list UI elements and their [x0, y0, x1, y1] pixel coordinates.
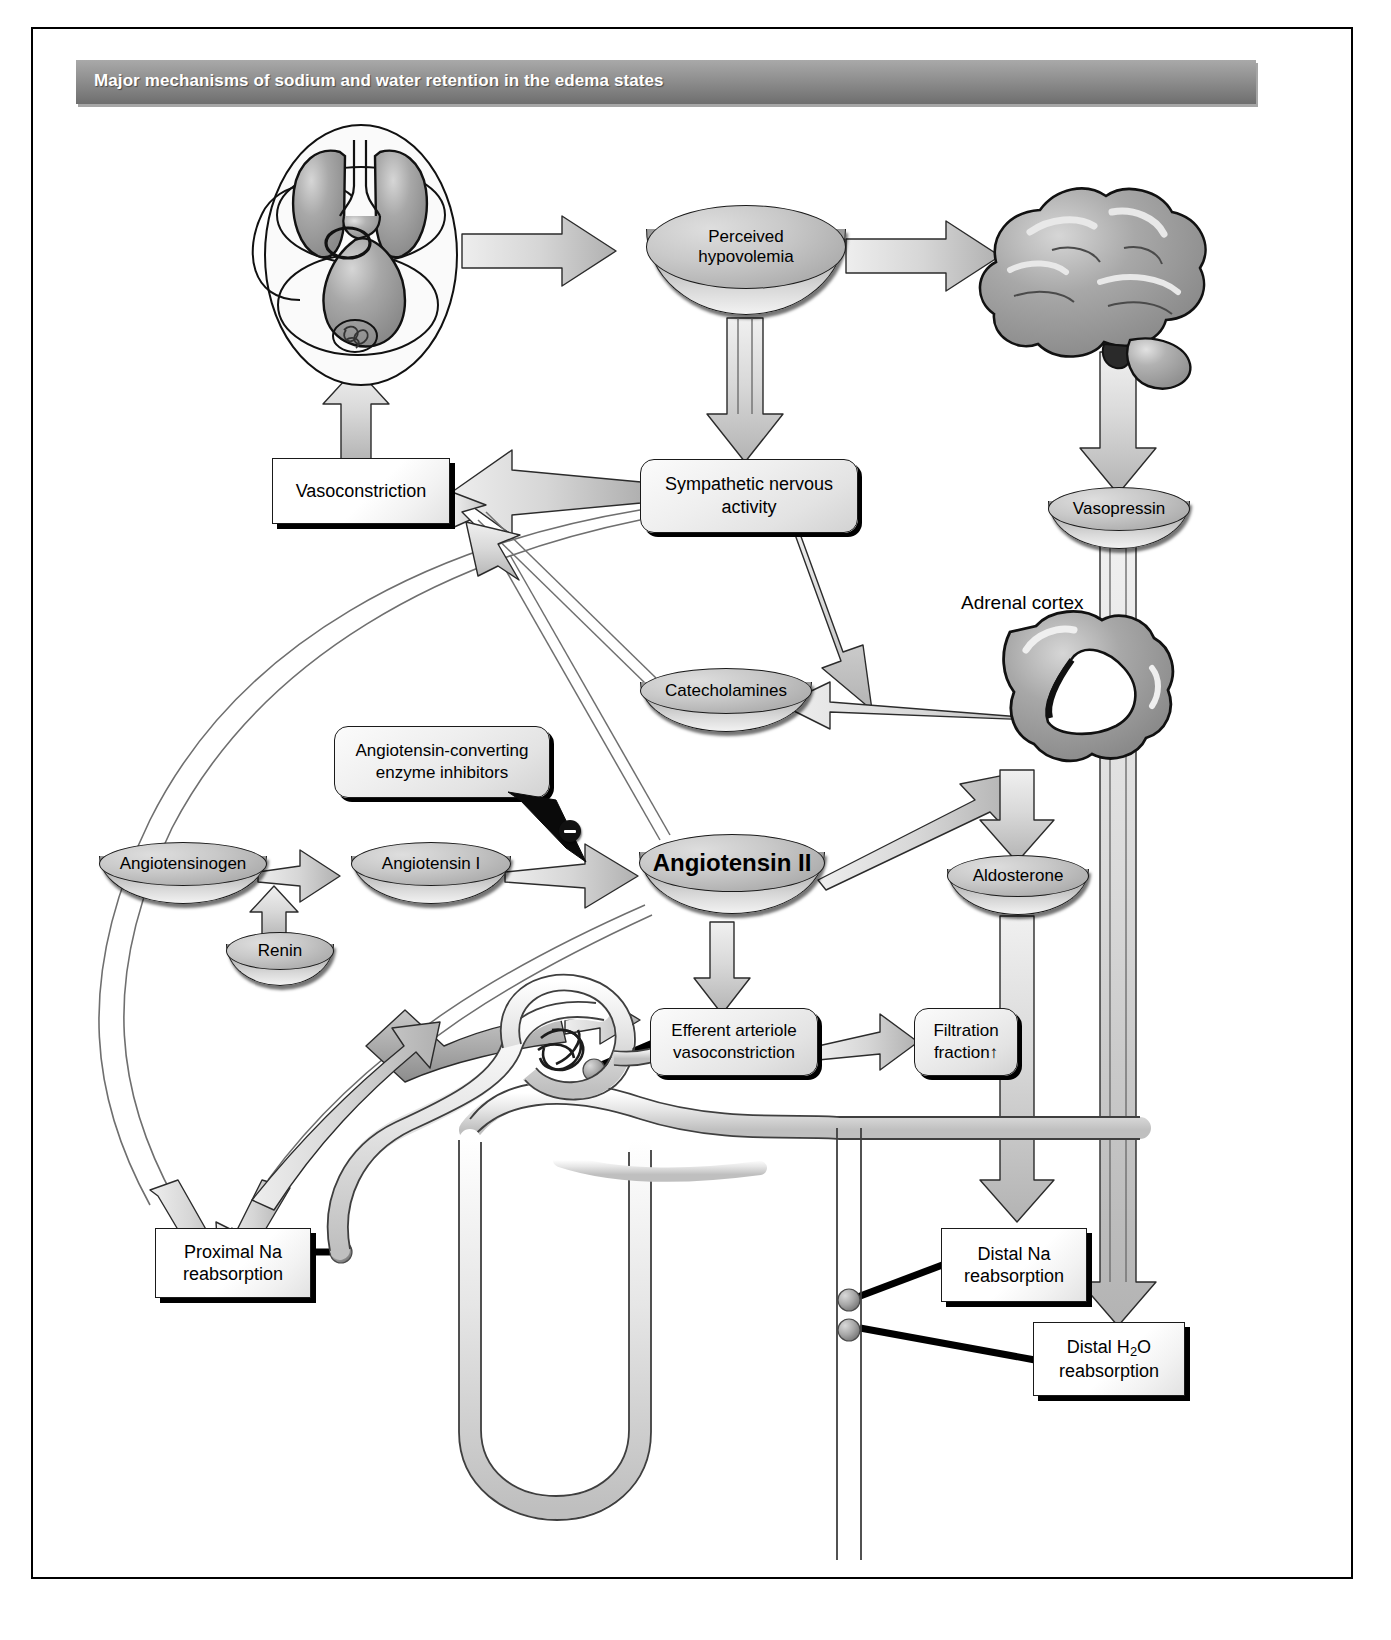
- node-proximal-na-reabsorption[interactable]: Proximal Na reabsorption: [155, 1228, 311, 1298]
- disc-top: Aldosterone: [947, 855, 1089, 897]
- disc-top: Angiotensin I: [351, 842, 511, 886]
- node-angiotensin-ii[interactable]: Angiotensin II: [639, 834, 825, 914]
- disc-top: Angiotensinogen: [99, 842, 267, 886]
- node-aldosterone[interactable]: Aldosterone: [947, 855, 1089, 915]
- minus-inhibition-symbol: [559, 820, 581, 842]
- node-label: Aldosterone: [973, 866, 1064, 886]
- node-label-line2: hypovolemia: [698, 247, 793, 266]
- disc-top: Renin: [226, 932, 334, 970]
- node-sympathetic-nervous-activity[interactable]: Sympathetic nervous activity: [640, 459, 858, 533]
- node-label-line1: Proximal Na: [184, 1242, 282, 1262]
- label-adrenal-cortex: Adrenal cortex: [961, 592, 1084, 614]
- node-label-line1-pre: Distal H: [1067, 1337, 1130, 1357]
- node-label-line2: reabsorption: [183, 1264, 283, 1284]
- adrenal-cortex-text: Adrenal cortex: [961, 592, 1084, 613]
- node-label-line1-post: O: [1137, 1337, 1151, 1357]
- node-label-line1: Efferent arteriole: [671, 1021, 796, 1040]
- node-label-line2: reabsorption: [1059, 1361, 1159, 1381]
- node-label: Vasoconstriction: [296, 480, 427, 503]
- title-banner: Major mechanisms of sodium and water ret…: [76, 60, 1256, 104]
- node-label: Angiotensin I: [382, 854, 480, 874]
- disc-top: Vasopressin: [1048, 487, 1190, 531]
- node-label-line1: Filtration: [933, 1021, 998, 1040]
- node-efferent-arteriole-vasoconstriction[interactable]: Efferent arteriole vasoconstriction: [650, 1008, 818, 1076]
- node-filtration-fraction[interactable]: Filtration fraction↑: [914, 1008, 1018, 1076]
- node-label: Renin: [258, 941, 302, 961]
- node-vasopressin[interactable]: Vasopressin: [1048, 487, 1190, 549]
- node-angiotensinogen[interactable]: Angiotensinogen: [99, 842, 267, 904]
- node-label: Vasopressin: [1073, 499, 1165, 519]
- disc-top: Catecholamines: [640, 668, 812, 714]
- node-label-line2: vasoconstriction: [673, 1043, 795, 1062]
- node-label-line1: Perceived: [708, 227, 784, 246]
- node-vasoconstriction[interactable]: Vasoconstriction: [272, 458, 450, 524]
- node-label-line1-sub: 2: [1130, 1344, 1137, 1359]
- node-catecholamines[interactable]: Catecholamines: [640, 668, 812, 732]
- node-label-line1: Sympathetic nervous: [665, 474, 833, 494]
- disc-top: Angiotensin II: [639, 834, 825, 892]
- node-label-line1: Distal Na: [977, 1244, 1050, 1264]
- node-label-line2: reabsorption: [964, 1266, 1064, 1286]
- disc-top: Perceived hypovolemia: [646, 205, 846, 289]
- node-label-line2: fraction↑: [934, 1043, 998, 1062]
- node-label: Catecholamines: [665, 681, 787, 701]
- diagram-page: Major mechanisms of sodium and water ret…: [0, 0, 1391, 1640]
- node-label-line2: activity: [721, 497, 776, 517]
- page-title: Major mechanisms of sodium and water ret…: [94, 71, 664, 91]
- node-distal-h2o-reabsorption[interactable]: Distal H2O reabsorption: [1033, 1322, 1185, 1396]
- node-renin[interactable]: Renin: [226, 932, 334, 986]
- node-ace-inhibitors[interactable]: Angiotensin-converting enzyme inhibitors: [334, 726, 550, 798]
- node-label-line1: Angiotensin-converting: [356, 741, 529, 760]
- node-label: Angiotensin II: [653, 849, 812, 877]
- node-angiotensin-i[interactable]: Angiotensin I: [351, 842, 511, 904]
- node-perceived-hypovolemia[interactable]: Perceived hypovolemia: [646, 205, 846, 315]
- node-label: Angiotensinogen: [120, 854, 247, 874]
- node-distal-na-reabsorption[interactable]: Distal Na reabsorption: [941, 1228, 1087, 1302]
- node-label-line2: enzyme inhibitors: [376, 763, 508, 782]
